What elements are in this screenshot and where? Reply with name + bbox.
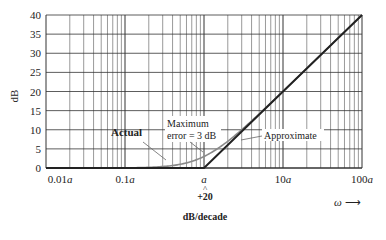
svg-text:35: 35 (30, 28, 42, 40)
grid (46, 15, 362, 168)
x-axis-label: ω ⟶ (334, 196, 361, 208)
y-tick-labels: 0510152025303540 (30, 9, 42, 174)
y-axis-label: dB (8, 90, 20, 103)
svg-text:10: 10 (30, 124, 42, 136)
svg-text:0.01a: 0.01a (48, 173, 73, 185)
approximate-label: Approximate (264, 130, 317, 141)
svg-text:20: 20 (30, 86, 42, 98)
svg-text:0: 0 (36, 162, 42, 174)
svg-text:0.1a: 0.1a (115, 173, 135, 185)
bode-chart: 0510152025303540 0.01a0.1aa10a100a dB Ac… (0, 0, 386, 240)
svg-text:5: 5 (36, 143, 42, 155)
actual-curve (46, 17, 360, 168)
svg-text:10a: 10a (275, 173, 292, 185)
svg-text:25: 25 (30, 66, 42, 78)
x-tick-labels: 0.01a0.1aa10a100a (48, 173, 374, 185)
svg-text:15: 15 (30, 105, 42, 117)
slope-value: +20 (197, 191, 213, 202)
svg-text:30: 30 (30, 47, 42, 59)
slope-unit: dB/decade (183, 211, 228, 222)
svg-text:100a: 100a (351, 173, 374, 185)
actual-label: Actual (111, 126, 142, 138)
max-error-label-2: error = 3 dB (167, 130, 217, 141)
max-error-label-1: Maximum (167, 118, 209, 129)
svg-text:40: 40 (30, 9, 42, 21)
